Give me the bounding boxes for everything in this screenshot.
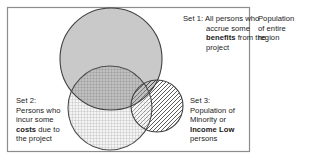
set2-label: Set 2: Persons who incur some costs due … [16,96,78,144]
set3-label-body-b: persons [190,134,217,143]
set3-label: Set 3: Population of Minority or Income … [190,96,252,144]
set2-label-emphasis: costs [16,125,36,134]
population-region-label: Population of entire region [258,14,312,43]
set1-label-emphasis: benefits [206,33,236,42]
set3-label-prefix: Set 3: [190,96,210,105]
set3-label-body-a: Population of Minority or [190,106,235,125]
set3-label-emphasis: Income Low [190,125,234,134]
set1-label-body-a: All persons who accrue some [203,14,259,33]
set2-label-body-a: Persons who incur some [16,106,60,125]
venn-diagram-figure: Set 1: All persons who accrue some benef… [0,0,316,162]
set1-label-prefix: Set 1: [183,14,203,23]
set2-label-prefix: Set 2: [16,96,36,105]
